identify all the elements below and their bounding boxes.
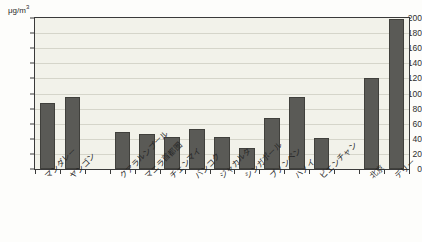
x-axis-tick-mark — [110, 170, 111, 174]
y-axis-unit-label: μg/m3 — [8, 4, 29, 15]
gridline — [35, 48, 409, 49]
x-axis-tick-mark — [60, 170, 61, 174]
gridline — [35, 78, 409, 79]
y-axis-unit-exponent: 3 — [26, 4, 29, 10]
chart-figure: μg/m3 020406080100120140160180200 マンダレーヤ… — [0, 0, 422, 242]
x-axis-tick-mark — [85, 170, 86, 174]
bar — [389, 19, 404, 169]
x-axis-tick-mark — [135, 170, 136, 174]
x-axis-tick-mark — [160, 170, 161, 174]
bar — [364, 78, 379, 169]
x-axis-tick-mark — [35, 170, 36, 174]
gridline — [35, 94, 409, 95]
y-axis-unit-text: μg/m — [8, 6, 26, 15]
x-axis-tick-mark — [359, 170, 360, 174]
gridline — [35, 109, 409, 110]
x-axis-tick-mark — [185, 170, 186, 174]
gridline — [35, 124, 409, 125]
gridline — [35, 33, 409, 34]
gridline — [35, 63, 409, 64]
bar — [40, 103, 55, 169]
